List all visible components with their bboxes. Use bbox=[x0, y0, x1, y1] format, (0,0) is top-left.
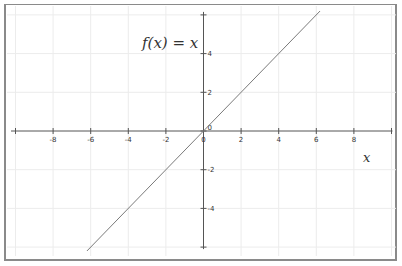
x-tick-label: -6 bbox=[87, 136, 95, 144]
x-axis-label: x bbox=[363, 150, 371, 165]
x-tick-label: -4 bbox=[125, 136, 133, 144]
x-tick-label: 8 bbox=[352, 136, 356, 144]
chart-title: f(x) = x bbox=[141, 34, 199, 52]
x-tick-label: 0 bbox=[201, 136, 205, 144]
x-tick-label: 4 bbox=[276, 136, 281, 144]
y-tick-label: -4 bbox=[208, 205, 216, 213]
x-tick-label: -2 bbox=[162, 136, 169, 144]
y-tick-label: -2 bbox=[208, 166, 215, 174]
function-plot: -8-6-4-202468-4-2024 f(x) = x x bbox=[0, 0, 402, 266]
y-tick-label: 4 bbox=[208, 50, 213, 58]
x-tick-label: 2 bbox=[239, 136, 243, 144]
y-tick-label: 2 bbox=[208, 89, 212, 97]
x-tick-label: 6 bbox=[314, 136, 319, 144]
x-tick-label: -8 bbox=[50, 136, 57, 144]
